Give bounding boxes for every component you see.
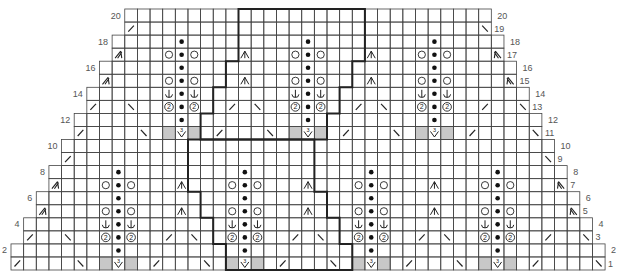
circled-two-digit: 2 [483,234,487,241]
grid-cell [340,87,353,100]
grid-cell [188,22,201,35]
grid-cell [150,74,163,87]
grid-cell [479,192,492,205]
grid-cell [226,22,239,35]
twist2-symbol: 2 [127,233,136,242]
grid-cell [314,218,327,231]
grid-cell [99,126,112,139]
grid-cell [340,100,353,113]
grid-cell [289,218,302,231]
grid-cell [87,113,100,126]
purl-dot-icon [369,248,374,253]
no-stitch-cell [378,257,391,270]
k2tog-symbol [406,260,412,266]
purl-symbol [369,183,374,188]
grid-cell [276,9,289,22]
grid-cell [466,205,479,218]
grid-cell [352,140,365,153]
ssk-symbol [520,104,526,110]
k2tog-symbol [90,104,96,110]
purl-dot-icon [306,65,311,70]
inc3-symbol: 3 [430,127,438,137]
grid-cell [390,140,403,153]
ssk-icon [394,130,400,136]
grid-cell [289,35,302,48]
anchor-symbol [482,220,489,228]
double-decrease-icon [304,208,312,215]
grid-cell [137,257,150,270]
grid-cell [289,179,302,192]
grid-cell [441,35,454,48]
k2tog-symbol [15,260,21,266]
grid-cell [276,100,289,113]
grid-cell [415,22,428,35]
ssk-symbol [78,260,84,266]
yo-symbol [481,208,488,215]
twist2-symbol: 2 [418,103,427,112]
grid-cell [517,166,530,179]
grid-cell [415,218,428,231]
purl-dot-icon [116,248,121,253]
grid-cell [314,257,327,270]
circled-two-digit: 2 [357,234,361,241]
grid-cell [36,192,49,205]
grid-cell [428,9,441,22]
grid-cell [302,192,315,205]
row-label-right: 2 [611,245,616,255]
row-label-right: 16 [523,63,533,73]
grid-cell [99,87,112,100]
yarn-over-icon [229,182,236,189]
purl-dot-icon [243,183,248,188]
grid-cell [137,140,150,153]
purl-dot-icon [243,248,248,253]
grid-cell [188,9,201,22]
grid-cell [150,9,163,22]
grid-cell [74,153,87,166]
grid-cell [314,192,327,205]
grid-cell [441,9,454,22]
purl-symbol [432,78,437,83]
grid-cell [378,61,391,74]
grid-cell [201,22,214,35]
grid-cell [188,205,201,218]
anchor-icon [191,90,198,98]
grid-cell [466,231,479,244]
grid-cell [403,140,416,153]
grid-cell [415,35,428,48]
grid-cell [264,35,277,48]
grid-cell [327,87,340,100]
yarn-over-icon [418,51,425,58]
row-label-right: 12 [548,115,558,125]
grid-cell [466,61,479,74]
grid-cell [479,48,492,61]
purl-dot-icon [369,222,374,227]
grid-cell [529,218,542,231]
grid-cell [137,166,150,179]
grid-cell [340,244,353,257]
grid-cell [74,231,87,244]
purl-dot-icon [179,78,184,83]
yo-symbol [292,51,299,58]
grid-cell [403,74,416,87]
grid-cell [340,113,353,126]
row-label-left: 8 [40,167,45,177]
grid-cell [87,153,100,166]
grid-cell [352,35,365,48]
purl-symbol [369,196,374,201]
grid-cell [150,166,163,179]
grid-cell [201,140,214,153]
grid-cell [542,192,555,205]
grid-cell [390,153,403,166]
purl-dot-icon [306,105,311,110]
circled-two-digit: 2 [129,234,133,241]
dec3-symbol [367,77,375,84]
grid-cell [340,231,353,244]
grid-cell [276,140,289,153]
grid-cell [453,113,466,126]
grid-cell [580,218,593,231]
grid-cell [441,48,454,61]
grid-cell [163,74,176,87]
grid-cell [314,22,327,35]
grid-cell [504,179,517,192]
grid-cell [466,9,479,22]
